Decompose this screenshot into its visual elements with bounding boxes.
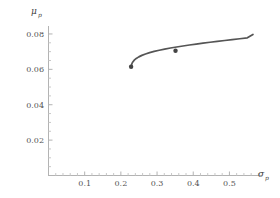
- x-axis-title-symbol: σ: [258, 169, 265, 179]
- x-tick-label: 0.1: [78, 179, 91, 188]
- x-tick-label: 0.5: [223, 179, 236, 188]
- efficient-frontier-curve: [131, 34, 253, 66]
- y-axis-title-symbol: μ: [31, 6, 37, 16]
- y-tick-label: 0.06: [26, 65, 44, 74]
- y-tick-label: 0.08: [26, 30, 44, 39]
- y-axis-tick-labels: 0.020.040.060.08: [26, 30, 44, 145]
- y-axis: 0.020.040.060.08: [26, 26, 52, 176]
- x-tick-label: 0.4: [187, 179, 200, 188]
- x-axis-title: σ p: [258, 169, 269, 182]
- minimum-variance-point: [129, 64, 133, 68]
- tangency-point: [173, 49, 177, 53]
- efficient-frontier-plot: 0.10.20.30.40.5 0.020.040.060.08 μ p σ p: [0, 0, 280, 198]
- y-axis-title: μ p: [31, 6, 42, 19]
- x-axis-title-subscript: p: [265, 174, 269, 182]
- y-axis-title-subscript: p: [38, 11, 42, 19]
- chart-figure: 0.10.20.30.40.5 0.020.040.060.08 μ p σ p: [0, 0, 280, 198]
- x-axis-tick-labels: 0.10.20.30.40.5: [78, 179, 235, 188]
- x-tick-label: 0.3: [151, 179, 164, 188]
- y-tick-label: 0.04: [26, 101, 44, 110]
- x-axis: 0.10.20.30.40.5: [48, 172, 262, 189]
- y-tick-label: 0.02: [26, 136, 44, 145]
- x-tick-label: 0.2: [115, 179, 128, 188]
